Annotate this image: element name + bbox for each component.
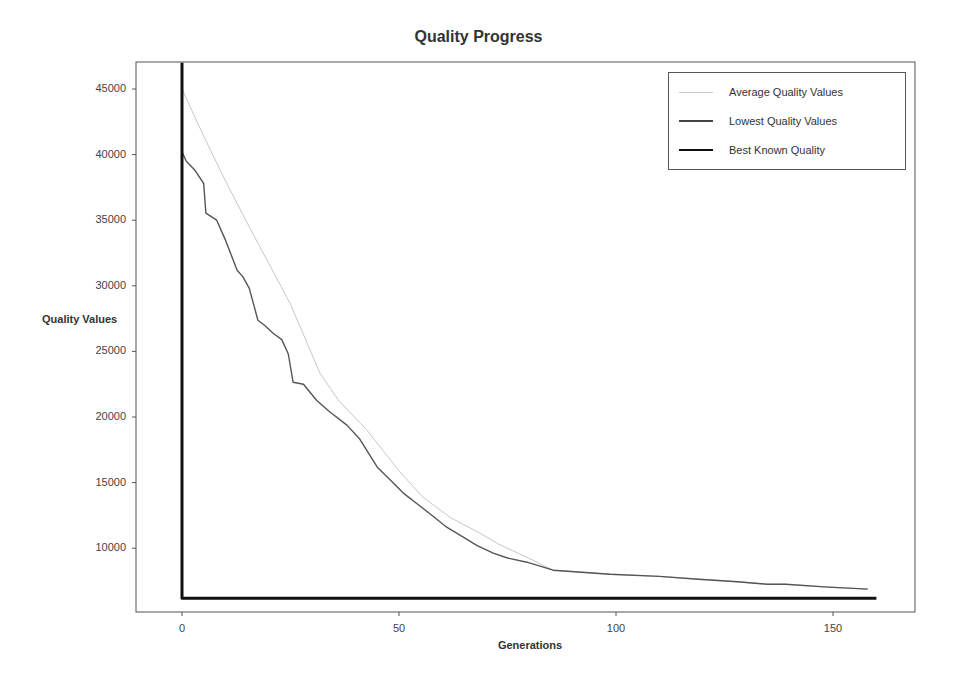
y-tick-label: 40000 [66, 148, 126, 160]
x-tick-label: 0 [162, 622, 202, 634]
x-tick-label: 100 [596, 622, 636, 634]
legend-swatch-best [679, 149, 713, 151]
y-tick-label: 20000 [66, 410, 126, 422]
legend-swatch-lowest [679, 120, 713, 122]
x-axis-label: Generations [0, 639, 957, 651]
legend-item-best: Best Known Quality [679, 143, 825, 157]
y-tick-label: 15000 [66, 476, 126, 488]
y-tick-label: 10000 [66, 541, 126, 553]
y-tick-label: 30000 [66, 279, 126, 291]
y-tick-label: 45000 [66, 82, 126, 94]
chart-legend: Average Quality Values Lowest Quality Va… [668, 72, 906, 170]
x-axis-ticks [182, 612, 833, 616]
legend-item-lowest: Lowest Quality Values [679, 114, 837, 128]
legend-label: Lowest Quality Values [729, 115, 837, 127]
x-tick-label: 150 [813, 622, 853, 634]
legend-item-average: Average Quality Values [679, 85, 843, 99]
x-tick-label: 50 [379, 622, 419, 634]
legend-label: Best Known Quality [729, 144, 825, 156]
legend-label: Average Quality Values [729, 86, 843, 98]
chart-title: Quality Progress [0, 28, 957, 46]
y-tick-label: 35000 [66, 213, 126, 225]
y-tick-label: 25000 [66, 344, 126, 356]
y-axis-label: Quality Values [42, 313, 117, 325]
legend-swatch-average [679, 92, 713, 93]
y-axis-ticks [132, 89, 136, 548]
